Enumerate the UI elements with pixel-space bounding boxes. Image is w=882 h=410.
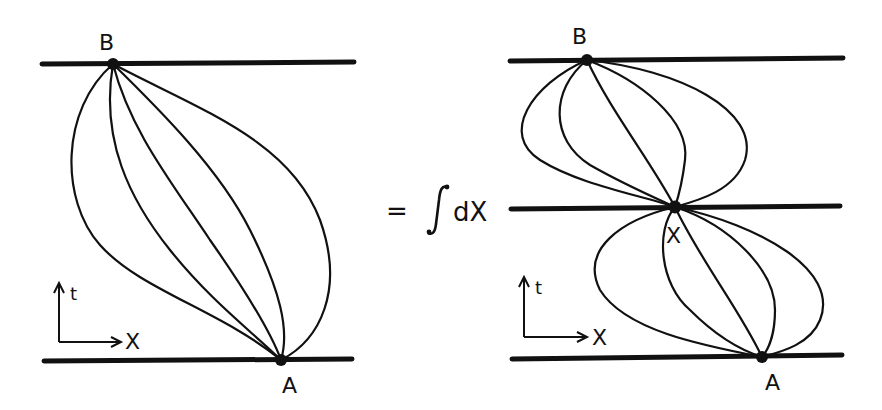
point-b-dot bbox=[107, 58, 119, 70]
left-panel: B A t X bbox=[42, 30, 354, 398]
point-x-label: X bbox=[666, 223, 681, 248]
equation: = dX bbox=[386, 185, 487, 235]
path-curve bbox=[110, 64, 281, 360]
point-b-label: B bbox=[99, 30, 114, 55]
integral-bottom-cap bbox=[427, 230, 432, 235]
path-curve bbox=[71, 64, 281, 360]
x-axis-label: X bbox=[592, 325, 607, 350]
right-lower-paths bbox=[595, 207, 823, 357]
right-upper-paths bbox=[522, 60, 747, 207]
right-bottom-time-slice bbox=[512, 355, 842, 359]
point-x-dot bbox=[669, 201, 682, 214]
path-curve bbox=[560, 60, 675, 207]
differential-dx: dX bbox=[453, 197, 487, 227]
path-curve bbox=[113, 64, 281, 360]
x-axis-label: X bbox=[125, 329, 140, 354]
path-curve bbox=[113, 64, 330, 360]
path-curve bbox=[675, 207, 775, 357]
point-a-label: A bbox=[765, 370, 780, 395]
point-a-dot bbox=[756, 351, 768, 363]
left-bottom-time-slice bbox=[44, 359, 352, 361]
right-axes: t X bbox=[519, 277, 607, 350]
point-b-dot bbox=[581, 54, 593, 66]
integral-sign-icon bbox=[428, 187, 447, 234]
point-a-dot bbox=[275, 354, 287, 366]
left-top-time-slice bbox=[42, 62, 354, 64]
right-panel: B X A t X bbox=[510, 24, 843, 395]
left-paths bbox=[71, 64, 330, 360]
left-axes: t X bbox=[54, 283, 140, 354]
point-b-label: B bbox=[572, 24, 587, 49]
t-axis-label: t bbox=[535, 277, 542, 298]
point-a-label: A bbox=[282, 373, 297, 398]
t-axis-label: t bbox=[70, 283, 77, 304]
equals-sign: = bbox=[386, 196, 408, 226]
integral-top-cap bbox=[445, 185, 450, 190]
right-top-time-slice bbox=[510, 58, 843, 61]
path-integral-diagram: B A t X = dX bbox=[0, 0, 882, 410]
path-curve bbox=[587, 60, 747, 207]
